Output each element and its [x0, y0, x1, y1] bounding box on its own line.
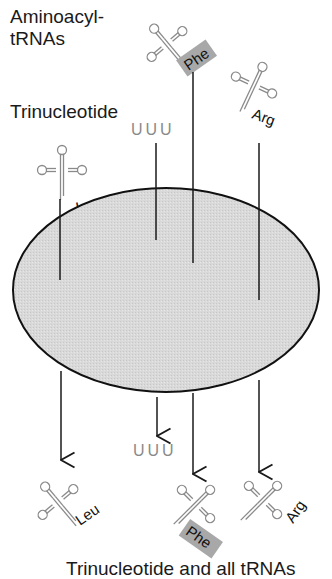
figure-caption: Trinucleotide and all tRNAs: [66, 558, 296, 579]
bottom-leu-label: Leu: [72, 500, 102, 528]
bottom-uuu: UUU: [133, 442, 177, 459]
aminoacyl-trnas-label: Aminoacyl- tRNAs: [10, 6, 104, 50]
top-arg-label: Arg: [250, 105, 278, 129]
top-trna-arg: Arg: [219, 52, 286, 128]
bottom-trna-leu: Leu: [23, 467, 102, 540]
bottom-trna-phe: Phe: [157, 469, 230, 558]
trnas-text: tRNAs: [10, 28, 104, 50]
aminoacyl-text: Aminoacyl-: [10, 6, 104, 28]
nitrocellulose-filter: [13, 188, 319, 392]
bottom-arg-label: Arg: [282, 497, 309, 526]
top-uuu: UUU: [131, 121, 175, 138]
trinucleotide-label: Trinucleotide: [10, 101, 118, 123]
bottom-trna-arg: Arg: [224, 465, 308, 538]
top-trna-phe: Phe: [132, 9, 217, 82]
